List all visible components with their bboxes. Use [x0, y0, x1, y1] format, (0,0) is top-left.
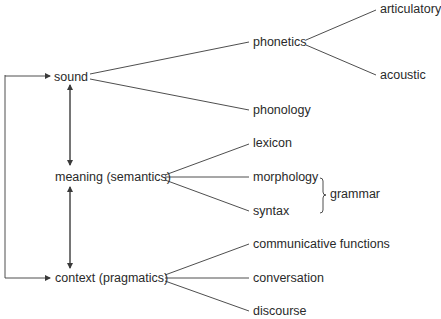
group-grammar: grammar: [330, 187, 380, 201]
node-lexicon: lexicon: [253, 136, 292, 150]
node-articulatory: articulatory: [380, 2, 441, 16]
node-communicative-functions: communicative functions: [253, 237, 390, 251]
node-sound: sound: [54, 70, 88, 84]
node-acoustic: acoustic: [380, 68, 426, 82]
node-morphology: morphology: [253, 170, 318, 184]
node-discourse: discourse: [253, 304, 307, 318]
node-meaning: meaning (semantics): [55, 170, 171, 184]
node-conversation: conversation: [253, 271, 324, 285]
node-context: context (pragmatics): [55, 271, 168, 285]
grammar-brace: [320, 178, 326, 213]
node-phonetics: phonetics: [253, 35, 307, 49]
node-phonology: phonology: [253, 103, 311, 117]
node-syntax: syntax: [253, 204, 289, 218]
